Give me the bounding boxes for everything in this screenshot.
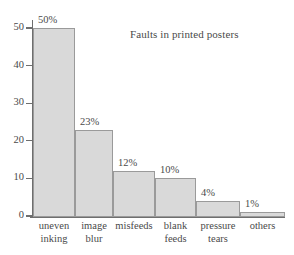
y-axis-tick: [26, 178, 33, 179]
x-axis-category-label-line: blur: [54, 233, 134, 246]
y-axis-tick: [26, 65, 33, 66]
x-axis-category-label-line: others: [223, 220, 294, 233]
y-axis-tick-label: 20: [0, 134, 24, 146]
y-axis-tick: [26, 27, 33, 28]
bar-value-label: 12%: [118, 157, 137, 168]
y-axis-tick-label: 30: [0, 96, 24, 108]
x-axis-category-label: others: [223, 220, 294, 233]
y-axis-tick: [26, 140, 33, 141]
y-axis-tick-label: 40: [0, 59, 24, 71]
bar[interactable]: [75, 130, 113, 217]
y-axis-tick-label-text: 10: [14, 171, 25, 182]
y-axis-tick-label-text: 0: [19, 209, 24, 220]
bar[interactable]: [196, 201, 240, 217]
y-axis-tick: [26, 215, 33, 216]
y-axis-tick-label-text: 50: [14, 21, 25, 32]
bar[interactable]: [155, 178, 196, 217]
y-axis-tick-label: 50: [0, 21, 24, 33]
x-axis-category-label-line: tears: [178, 233, 258, 246]
bar-value-label: 23%: [80, 116, 99, 127]
bar-value-label: 10%: [160, 164, 179, 175]
bar[interactable]: [113, 171, 155, 217]
y-axis-tick-label-text: 30: [14, 96, 25, 107]
bar[interactable]: [240, 212, 285, 217]
y-axis-tick-label-text: 20: [14, 134, 25, 145]
y-axis-tick: [26, 103, 33, 104]
y-axis-tick-label-text: 40: [14, 59, 25, 70]
bar-chart: Faults in printed posters 01020304050 50…: [0, 0, 293, 255]
bar[interactable]: [33, 28, 75, 217]
chart-title: Faults in printed posters: [130, 28, 239, 40]
bar-value-label: 50%: [38, 14, 57, 25]
bar-value-label: 4%: [201, 187, 215, 198]
y-axis-tick-label: 10: [0, 171, 24, 183]
bar-value-label: 1%: [245, 198, 259, 209]
